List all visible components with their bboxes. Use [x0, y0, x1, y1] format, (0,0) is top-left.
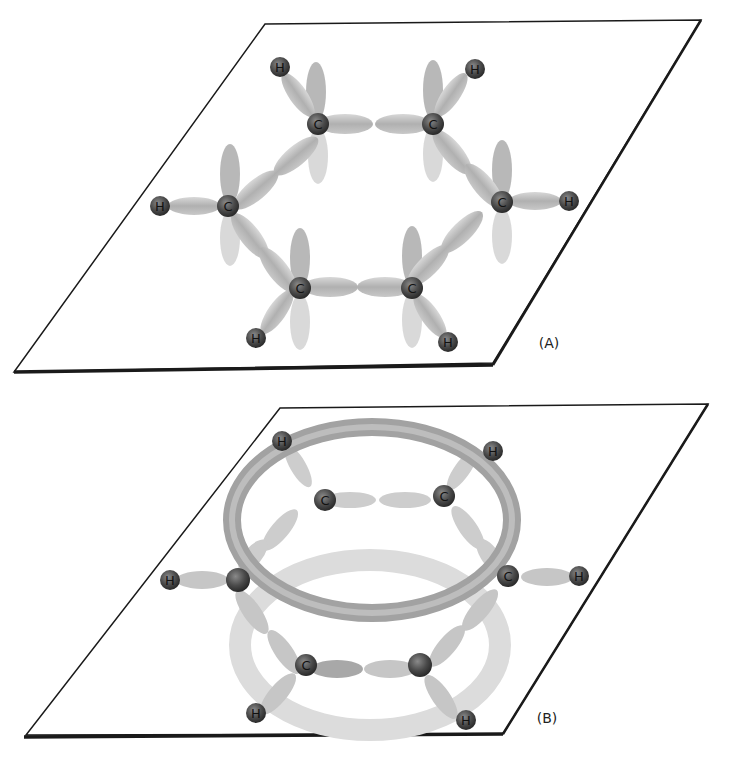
- svg-text:H: H: [574, 569, 584, 584]
- svg-text:H: H: [275, 60, 285, 75]
- panel-a: C C C C C C H H H H H H (A): [14, 20, 701, 372]
- carbon-atom: C: [497, 565, 519, 587]
- svg-text:H: H: [251, 706, 261, 721]
- carbon-atom: C: [217, 195, 239, 217]
- hydrogen-atom: H: [559, 191, 579, 211]
- carbon-atom: C: [401, 277, 423, 299]
- carbon-atom: C: [289, 277, 311, 299]
- svg-text:C: C: [503, 569, 512, 584]
- svg-text:C: C: [407, 281, 416, 296]
- carbon-atom: C: [295, 654, 317, 676]
- hydrogen-atom: H: [272, 431, 292, 451]
- hydrogen-atom: H: [246, 703, 266, 723]
- hydrogen-atom: H: [160, 570, 180, 590]
- panel-b: C C C C H H H H H H (B): [24, 404, 708, 737]
- svg-text:C: C: [223, 199, 232, 214]
- svg-text:H: H: [251, 331, 261, 346]
- svg-text:H: H: [564, 194, 574, 209]
- panel-label-a: (A): [539, 335, 560, 351]
- svg-text:H: H: [277, 434, 287, 449]
- hydrogen-atom: H: [150, 196, 170, 216]
- hydrogen-atom: H: [456, 710, 476, 730]
- svg-text:C: C: [497, 195, 506, 210]
- hydrogen-atom: H: [270, 57, 290, 77]
- svg-text:C: C: [313, 117, 322, 132]
- svg-text:H: H: [443, 335, 453, 350]
- benzene-orbital-figure: C C C C C C H H H H H H (A): [0, 0, 731, 774]
- hydrogen-atom: H: [246, 328, 266, 348]
- svg-text:C: C: [320, 493, 329, 508]
- svg-text:H: H: [461, 713, 471, 728]
- panel-label-b: (B): [537, 710, 558, 726]
- hydrogen-atom: H: [465, 59, 485, 79]
- carbon-atom: C: [433, 485, 455, 507]
- carbon-atom: C: [491, 191, 513, 213]
- hydrogen-atom: H: [483, 441, 503, 461]
- svg-text:C: C: [428, 117, 437, 132]
- svg-text:C: C: [439, 489, 448, 504]
- hydrogen-atom: H: [438, 332, 458, 352]
- svg-text:H: H: [488, 444, 498, 459]
- carbon-atom-unlabeled: [226, 568, 250, 592]
- carbon-atom: C: [314, 489, 336, 511]
- carbon-atom-unlabeled: [408, 653, 432, 677]
- carbon-atom: C: [307, 113, 329, 135]
- svg-text:C: C: [301, 658, 310, 673]
- svg-text:C: C: [295, 281, 304, 296]
- svg-text:H: H: [470, 62, 480, 77]
- carbon-atom: C: [422, 113, 444, 135]
- svg-text:H: H: [155, 199, 165, 214]
- svg-text:H: H: [165, 573, 175, 588]
- molecular-plane-a: [14, 20, 701, 372]
- hydrogen-atom: H: [569, 566, 589, 586]
